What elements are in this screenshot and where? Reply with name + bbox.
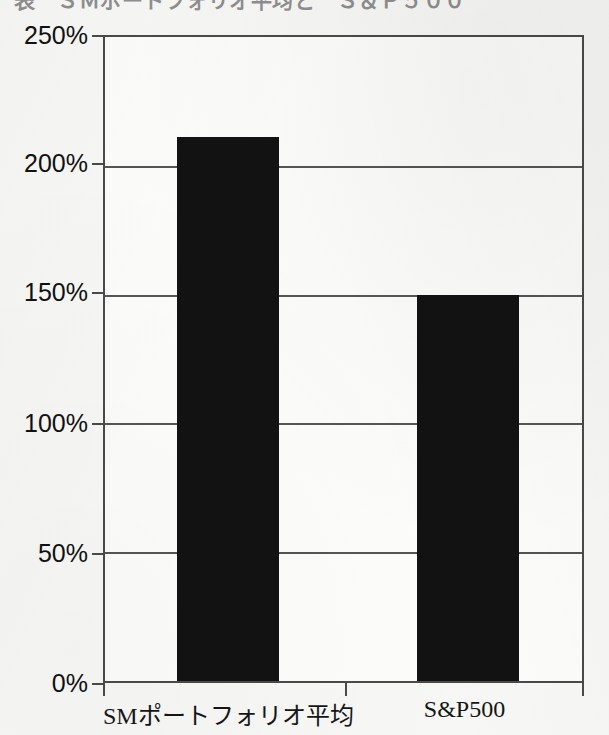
y-tick-label-100: 100% (0, 409, 88, 438)
cut-off-title-remnant: 表 ＳＭポートフォリオ平均と Ｓ＆Ｐ５００ (0, 0, 609, 11)
y-tick-label-0: 0% (0, 669, 88, 698)
y-tick-label-250: 250% (0, 21, 88, 50)
y-tick-mark-100 (92, 423, 103, 425)
y-tick-mark-50 (92, 553, 103, 555)
x-category-label-sm-portfolio-average: SMポートフォリオ平均 (103, 696, 345, 731)
y-tick-mark-150 (92, 292, 103, 294)
title-remnant-text: 表 ＳＭポートフォリオ平均と Ｓ＆Ｐ５００ (14, 0, 466, 11)
y-tick-label-50: 50% (0, 539, 88, 568)
y-tick-mark-250 (92, 35, 103, 37)
bar-sp500 (417, 295, 519, 681)
x-tick-left-edge (103, 683, 105, 696)
bar-sm-portfolio-average (177, 137, 279, 681)
y-tick-label-200: 200% (0, 149, 88, 178)
y-tick-label-150: 150% (0, 278, 88, 307)
x-tick-right-edge (582, 683, 584, 696)
y-tick-mark-200 (92, 163, 103, 165)
y-tick-mark-0 (92, 683, 103, 685)
x-category-label-sp500: S&P500 (345, 696, 584, 723)
x-tick-category-divider (345, 683, 347, 696)
plot-area (103, 35, 584, 683)
